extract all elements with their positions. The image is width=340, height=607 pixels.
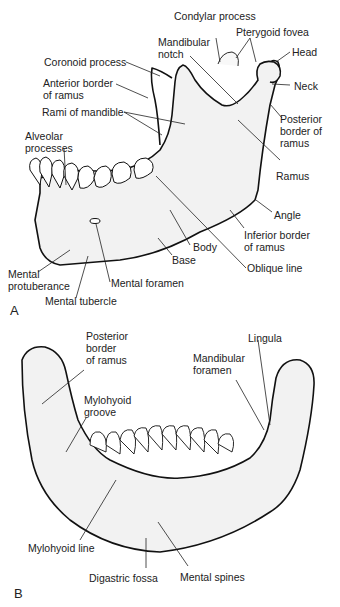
label-rami-of-mandible: Rami of mandible xyxy=(42,106,124,118)
label-mandibular-foramen: Mandibular foramen xyxy=(193,352,245,376)
label-inferior-border-of-ramus: Inferior border of ramus xyxy=(244,229,310,253)
label-pterygoid-fovea: Pterygoid fovea xyxy=(236,26,309,38)
label-neck: Neck xyxy=(294,80,318,92)
label-base: Base xyxy=(172,254,196,266)
label-mental-protuberance: Mental protuberance xyxy=(8,268,70,292)
label-posterior-border-of-ramus: Posterior border of ramus xyxy=(280,113,322,149)
label-lingula: Lingula xyxy=(248,332,282,344)
label-ramus: Ramus xyxy=(276,170,309,182)
label-mental-foramen: Mental foramen xyxy=(111,277,184,289)
label-mental-spines: Mental spines xyxy=(180,571,245,583)
label-head: Head xyxy=(292,46,317,58)
panel-label-b: B xyxy=(14,586,23,601)
label-b-posterior-border-of-ramus: Posterior border of ramus xyxy=(86,330,128,366)
label-oblique-line: Oblique line xyxy=(247,262,302,274)
label-angle: Angle xyxy=(274,209,301,221)
label-condylar-process: Condylar process xyxy=(174,10,256,22)
teeth-posterior xyxy=(90,426,234,454)
label-mylohyoid-line: Mylohyoid line xyxy=(28,542,95,554)
label-alveolar-processes: Alveolar processes xyxy=(25,130,73,154)
panel-label-a: A xyxy=(10,303,19,318)
mental-foramen-mark xyxy=(90,219,100,224)
label-mental-tubercle: Mental tubercle xyxy=(45,295,117,307)
label-body: Body xyxy=(193,241,217,253)
mandible-posterior-view xyxy=(22,347,314,552)
label-anterior-border-of-ramus: Anterior border of ramus xyxy=(43,77,113,101)
label-coronoid-process: Coronoid process xyxy=(44,56,126,68)
label-mylohyoid-groove: Mylohyoid groove xyxy=(84,394,131,418)
label-digastric-fossa: Digastric fossa xyxy=(89,572,158,584)
label-mandibular-notch: Mandibular notch xyxy=(158,36,210,60)
